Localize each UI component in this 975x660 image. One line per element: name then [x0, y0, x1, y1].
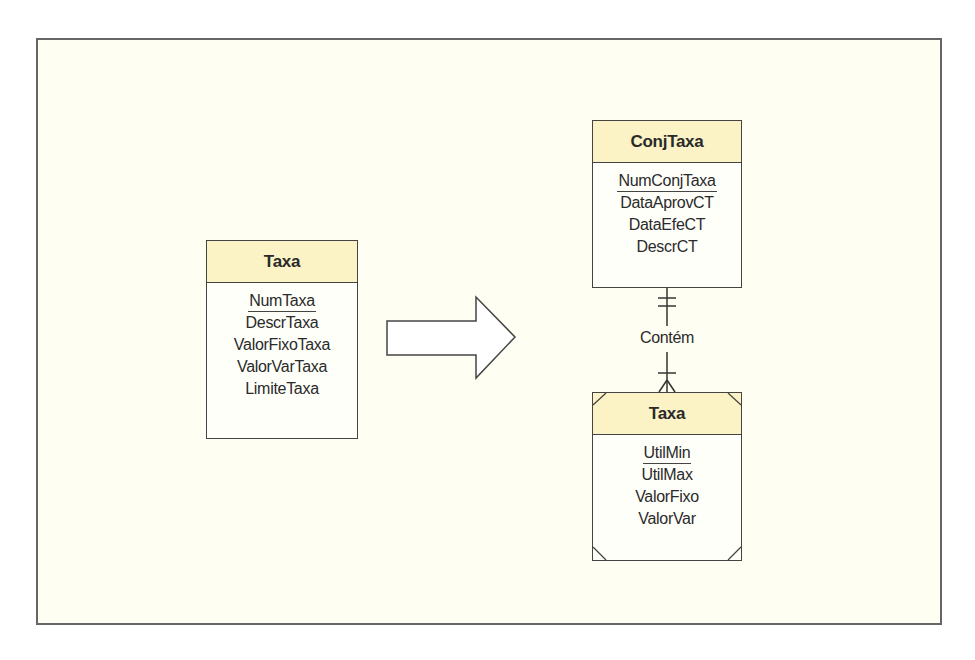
attribute: DescrTaxa — [207, 312, 357, 334]
primary-key-attribute: UtilMin — [643, 443, 692, 464]
entity-title: ConjTaxa — [631, 132, 704, 152]
attribute: ValorVarTaxa — [207, 356, 357, 378]
attribute: LimiteTaxa — [207, 378, 357, 400]
primary-key-attribute: NumTaxa — [248, 291, 315, 312]
attribute: DescrCT — [593, 236, 741, 258]
attribute: DataAprovCT — [593, 192, 741, 214]
relationship-label: Contém — [617, 329, 717, 347]
entity-header: ConjTaxa — [593, 121, 741, 163]
entity-header: Taxa — [593, 393, 741, 435]
entity-attributes: UtilMin UtilMax ValorFixo ValorVar — [593, 435, 741, 530]
entity-attributes: NumConjTaxa DataAprovCT DataEfeCT DescrC… — [593, 163, 741, 258]
entity-attributes: NumTaxa DescrTaxa ValorFixoTaxa ValorVar… — [207, 283, 357, 400]
entity-title: Taxa — [649, 404, 685, 424]
primary-key-attribute: NumConjTaxa — [617, 171, 716, 192]
entity-title: Taxa — [264, 252, 300, 272]
attribute: ValorFixoTaxa — [207, 334, 357, 356]
entity-header: Taxa — [207, 241, 357, 283]
attribute: ValorVar — [593, 508, 741, 530]
entity-conjtaxa: ConjTaxa NumConjTaxa DataAprovCT DataEfe… — [592, 120, 742, 288]
diagram-frame — [36, 38, 942, 625]
attribute: DataEfeCT — [593, 214, 741, 236]
attribute: ValorFixo — [593, 486, 741, 508]
entity-taxa-original: Taxa NumTaxa DescrTaxa ValorFixoTaxa Val… — [206, 240, 358, 439]
entity-taxa-weak: Taxa UtilMin UtilMax ValorFixo ValorVar — [592, 392, 742, 561]
attribute: UtilMax — [593, 464, 741, 486]
